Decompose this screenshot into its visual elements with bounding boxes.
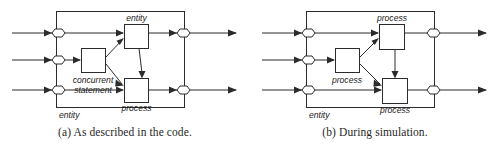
block-middle-left-b (336, 49, 360, 73)
block-label-middle-left-b: process (331, 75, 363, 85)
wire-middle-to-bottom-b (360, 64, 380, 84)
arrowhead-top-block-in-a (116, 30, 124, 37)
block-middle-left-a (82, 49, 106, 73)
block-label-top-right-b: process (376, 13, 408, 23)
wire-top-to-bottom-a (139, 49, 142, 74)
block-label-bottom-right-b: process (379, 105, 411, 115)
block-bottom-right-b (383, 79, 408, 104)
output-port-2-a (177, 86, 190, 94)
block-bottom-right-a (125, 79, 149, 103)
diagram-a: entity concurrent statement process enti… (0, 0, 250, 125)
arrowhead-bottom-block-in-b (374, 87, 382, 94)
block-label-top-right-a: entity (126, 13, 147, 23)
input-port-3-b (302, 86, 315, 94)
input-port-1-a (52, 29, 65, 37)
figure-panel-b: process process process entity (b) Durin… (250, 0, 500, 155)
input-arrowhead-2-b (294, 57, 302, 64)
output-arrowhead-1-a (228, 30, 237, 37)
input-arrowhead-3-a (44, 87, 52, 94)
arrowhead-output-port-1-a (169, 30, 177, 37)
diagram-b: process process process entity (250, 0, 500, 125)
outer-entity-label-a: entity (59, 110, 80, 120)
block-label-bottom-right-a: process (120, 103, 152, 113)
output-arrowhead-2-a (228, 87, 237, 94)
arrowhead-top-to-bottom-b (392, 71, 399, 79)
output-port-2-b (427, 86, 440, 94)
arrowhead-middle-block-in-b (327, 57, 335, 64)
output-arrowhead-2-b (478, 87, 487, 94)
input-port-2-a (52, 56, 65, 64)
arrowhead-bottom-block-in-a (116, 87, 124, 94)
input-arrowhead-2-a (44, 57, 52, 64)
output-port-1-a (177, 29, 190, 37)
block-top-right-a (125, 25, 149, 49)
caption-panel-a: (a) As described in the code. (0, 126, 250, 138)
input-port-2-b (302, 56, 315, 64)
output-port-1-b (427, 29, 440, 37)
outer-entity-label-b: entity (309, 110, 330, 120)
input-arrowhead-1-a (44, 30, 52, 37)
input-arrowhead-1-b (294, 30, 302, 37)
arrowhead-middle-to-bottom-b (373, 80, 382, 87)
block-label-middle-left-line1-a: concurrent (73, 75, 114, 85)
block-top-right-b (380, 25, 405, 50)
arrowhead-output-port-2-a (169, 87, 177, 94)
input-arrowhead-3-b (294, 87, 302, 94)
arrowhead-middle-block-in-a (73, 57, 81, 64)
input-port-3-a (52, 86, 65, 94)
figure-panel-a: entity concurrent statement process enti… (0, 0, 250, 155)
arrowhead-top-block-in-b (371, 30, 379, 37)
figure-root: entity concurrent statement process enti… (0, 0, 500, 155)
output-arrowhead-1-b (478, 30, 487, 37)
arrowhead-top-to-bottom-a (139, 71, 146, 79)
block-label-middle-left-line2-a: statement (74, 85, 112, 95)
caption-panel-b: (b) During simulation. (250, 126, 500, 138)
input-port-1-b (302, 29, 315, 37)
